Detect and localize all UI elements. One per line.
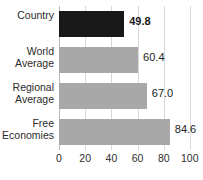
bar-free-economies[interactable] (59, 119, 170, 145)
category-label-world-average: World Average (0, 46, 54, 69)
bar-row-free-economies: Free Economies 84.6 (59, 114, 190, 150)
bar-world-average[interactable] (59, 47, 138, 73)
value-label-regional-average: 67.0 (152, 87, 173, 99)
category-label-country: Country (0, 10, 54, 22)
bar-country[interactable] (59, 11, 124, 37)
x-tick-80: 80 (158, 152, 170, 164)
bar-row-country: Country 49.8 (59, 6, 190, 42)
category-label-free-economies: Free Economies (0, 118, 54, 141)
bar-chart: Country 49.8 World Average 60.4 Regional… (0, 0, 203, 180)
category-label-regional-average: Regional Average (0, 82, 54, 105)
bar-row-regional-average: Regional Average 67.0 (59, 78, 190, 114)
bar-regional-average[interactable] (59, 83, 147, 109)
x-tick-40: 40 (106, 152, 118, 164)
x-tick-100: 100 (181, 152, 199, 164)
x-tick-0: 0 (56, 152, 62, 164)
x-tick-60: 60 (132, 152, 144, 164)
value-label-country: 49.8 (129, 15, 150, 27)
x-axis: 0 20 40 60 80 100 (59, 152, 190, 172)
x-tick-20: 20 (79, 152, 91, 164)
bar-row-world-average: World Average 60.4 (59, 42, 190, 78)
value-label-free-economies: 84.6 (175, 123, 196, 135)
plot-area: Country 49.8 World Average 60.4 Regional… (59, 6, 190, 150)
value-label-world-average: 60.4 (143, 51, 164, 63)
